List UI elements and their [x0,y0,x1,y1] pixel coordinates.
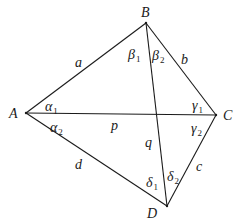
vertex-label-c: C [223,108,233,123]
angle-label-beta-2: β2 [151,48,164,65]
side-a [26,23,146,113]
angle-label-gamma-1: γ1 [192,98,203,115]
vertex-point-a [25,112,27,114]
side-label-b: b [181,52,188,67]
quadrilateral-diagram: ABCD abcdpq α1α2β1β2γ1γ2δ1δ2 [0,0,245,224]
angle-label-alpha-1: α1 [45,99,58,116]
vertex-label-b: B [141,5,150,20]
vertex-label-d: D [146,206,157,221]
side-b [146,23,216,115]
side-d [26,113,167,206]
side-label-c: c [196,159,203,174]
side-label-a: a [75,55,82,70]
vertex-point-d [166,205,168,207]
angle-label-alpha-2: α2 [50,120,63,137]
vertex-point-c [215,114,217,116]
angle-labels: α1α2β1β2γ1γ2δ1δ2 [45,47,203,192]
vertex-point-b [145,22,147,24]
angle-label-delta-1: δ1 [146,175,158,192]
angle-label-beta-1: β1 [127,47,140,64]
side-label-d: d [75,157,83,172]
diagonal-label-p: p [110,118,118,133]
diagonal-label-q: q [145,135,152,150]
side-labels: abcdpq [75,52,203,174]
angle-label-delta-2: δ2 [167,169,179,186]
vertex-label-a: A [8,106,18,121]
angle-label-gamma-2: γ2 [191,121,202,138]
